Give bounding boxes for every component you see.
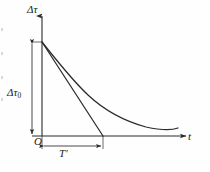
figure-container: Δτ t O Δτ0 T′ <box>0 0 210 172</box>
initial-tangent-line <box>42 42 103 136</box>
exponential-decay-curve <box>42 42 178 130</box>
initial-value-label: Δτ0 <box>7 87 21 98</box>
initial-value-label-subscript: 0 <box>17 91 21 100</box>
initial-value-label-base: Δτ <box>7 86 17 98</box>
scan-speck <box>1 52 3 55</box>
scan-speck <box>1 98 3 101</box>
time-constant-label: T′ <box>59 148 68 159</box>
origin-label: O <box>34 136 42 147</box>
y-axis-label: Δτ <box>27 4 37 15</box>
time-constant-label-prime: ′ <box>65 147 67 159</box>
scan-speck <box>1 76 3 79</box>
scan-speck <box>1 28 3 31</box>
decay-curve-figure <box>0 0 210 172</box>
x-axis-label: t <box>188 131 191 142</box>
